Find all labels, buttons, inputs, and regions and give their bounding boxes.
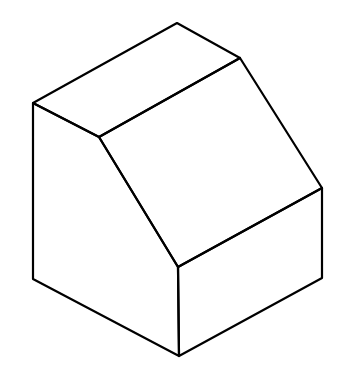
isometric-block-drawing — [0, 0, 350, 367]
sloped-face — [99, 58, 322, 267]
left-face — [33, 103, 179, 356]
front-right-face — [178, 188, 322, 356]
